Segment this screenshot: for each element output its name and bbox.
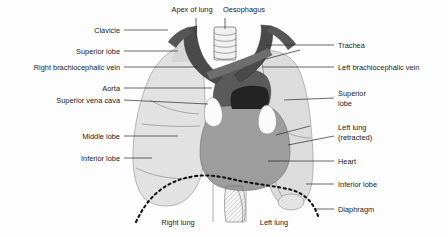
label-apex-of-lung: Apex of lung xyxy=(171,5,212,14)
label-inferior-lobe-left: Inferior lobe xyxy=(81,154,120,163)
label-right-lung: Right lung xyxy=(161,218,194,227)
label-trachea: Trachea xyxy=(338,41,366,50)
label-right-brachiocephalic-vein: Right brachiocephalic vein xyxy=(34,63,120,72)
pulmonary-trunk xyxy=(231,86,270,109)
label-left-lung-retracted-line2: (retracted) xyxy=(338,133,372,142)
label-superior-lobe-right-line2: lobe xyxy=(338,99,352,108)
label-superior-lobe: Superior lobe xyxy=(76,47,120,56)
label-left-brachiocephalic-vein: Left brachiocephalic vein xyxy=(338,63,419,72)
label-aorta: Aorta xyxy=(102,84,121,93)
label-middle-lobe: Middle lobe xyxy=(82,132,120,141)
label-oesophagus: Oesophagus xyxy=(223,5,265,14)
left-lung-lingula xyxy=(278,194,304,210)
anatomy-figure: Apex of lung Oesophagus Clavicle Superio… xyxy=(0,0,448,237)
label-clavicle: Clavicle xyxy=(94,26,120,35)
label-left-lung: Left lung xyxy=(260,218,288,227)
label-left-lung-retracted-line1: Left lung xyxy=(338,123,366,132)
label-inferior-lobe-right: Inferior lobe xyxy=(338,180,377,189)
label-diaphragm: Diaphragm xyxy=(338,205,374,214)
label-superior-lobe-right-line1: Superior xyxy=(338,89,366,98)
anatomy-artwork xyxy=(133,25,318,222)
trachea-shape xyxy=(214,27,236,60)
label-superior-vena-cava: Superior vena cava xyxy=(56,96,121,105)
label-heart: Heart xyxy=(338,157,356,166)
